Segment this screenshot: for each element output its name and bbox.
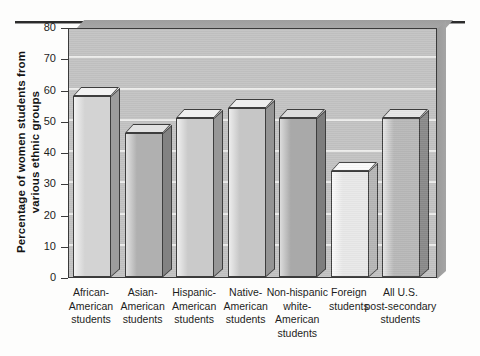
y-tick-label: 0 <box>2 271 56 283</box>
x-axis-label-line: American <box>261 313 333 327</box>
bar-front-face <box>382 118 420 277</box>
bar <box>382 118 420 277</box>
bar-front-face <box>73 96 111 277</box>
bar-front-face <box>331 171 369 277</box>
y-axis-title: Percentage of women students from variou… <box>14 32 42 272</box>
y-tick-80 <box>61 28 68 29</box>
y-tick-70 <box>61 59 68 60</box>
bar <box>176 118 214 277</box>
bar-side-face <box>369 163 378 277</box>
bar-side-face <box>420 110 429 277</box>
bar-top-face <box>73 87 119 96</box>
bar-front-face <box>279 118 317 277</box>
bar-side-face <box>214 110 223 277</box>
bar-top-face <box>125 124 171 133</box>
x-axis-label-line: students <box>261 327 333 341</box>
bar-top-face <box>331 162 377 171</box>
bar-chart-figure: 01020304050607080 Percentage of women st… <box>0 0 480 356</box>
x-axis-label-line: students <box>364 313 436 327</box>
bar-side-face <box>163 125 172 277</box>
bar-top-face <box>176 109 222 118</box>
bar <box>279 118 317 277</box>
x-axis-label: All U.S.post-secondarystudents <box>364 286 436 327</box>
x-axis-label-line: All U.S. <box>364 286 436 300</box>
bar-side-face <box>266 100 275 277</box>
bar-front-face <box>228 108 266 277</box>
y-tick-60 <box>61 91 68 92</box>
bar-front-face <box>176 118 214 277</box>
x-axis-label-line: post-secondary <box>364 300 436 314</box>
bar-front-face <box>125 133 163 277</box>
bar <box>228 108 266 277</box>
gridline-70 <box>69 56 436 58</box>
y-tick-0 <box>61 278 68 279</box>
bar-side-face <box>317 110 326 277</box>
bar <box>73 96 111 277</box>
bar <box>331 171 369 277</box>
plot-3d-right-face <box>437 21 446 279</box>
bar-top-face <box>279 109 325 118</box>
gridline-60 <box>69 88 436 90</box>
y-tick-50 <box>61 122 68 123</box>
y-tick-40 <box>61 153 68 154</box>
y-tick-10 <box>61 247 68 248</box>
bar <box>125 133 163 277</box>
y-tick-30 <box>61 184 68 185</box>
plot-area <box>68 28 437 278</box>
y-tick-20 <box>61 216 68 217</box>
bar-top-face <box>228 99 274 108</box>
bar-side-face <box>111 88 120 277</box>
